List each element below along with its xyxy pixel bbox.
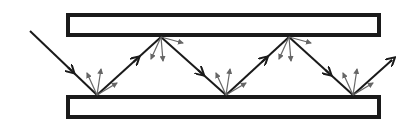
ray-arrow-icon (325, 70, 328, 73)
ray-arrow-icon (133, 59, 136, 62)
light-ray (30, 31, 392, 95)
scatter-arrow-icon (87, 73, 97, 95)
ray-arrow-icon (198, 70, 201, 73)
ray-arrow-icon (390, 60, 392, 62)
ray-segment (353, 60, 392, 95)
ray-segment (289, 37, 353, 95)
ray-arrow-icon (262, 59, 265, 62)
ray-segment (97, 37, 161, 95)
top-plate (68, 15, 379, 35)
light-guide-diagram (0, 0, 414, 128)
ray-segment (30, 31, 97, 95)
scatter-arrow-icon (161, 37, 163, 61)
ray-segment (161, 37, 226, 95)
ray-segment (226, 37, 289, 95)
bottom-plate (68, 97, 379, 117)
ray-arrow-icon (68, 67, 71, 70)
plates (68, 15, 379, 117)
scatter-arrow-icon (289, 37, 291, 61)
